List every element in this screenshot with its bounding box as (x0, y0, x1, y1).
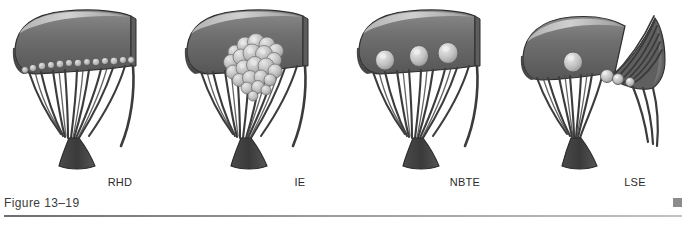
chordae-tendineae (373, 66, 469, 138)
papillary-muscle (231, 138, 267, 169)
chordae-secondary (35, 68, 107, 138)
papillary-muscle (59, 138, 95, 169)
valve-diagram-rhd (3, 0, 175, 176)
figure-caption-row: Figure 13–19 (0, 196, 690, 214)
chordae-right-marginal (633, 87, 658, 146)
valve-panels-row (0, 0, 690, 176)
figure-container: RHD IE NBTE LSE Figure 13–19 (0, 0, 690, 225)
caption-divider-rule (4, 215, 682, 217)
panel-label-lse: LSE (575, 176, 690, 188)
marginal-chord (465, 66, 478, 146)
panel-label-ie: IE (240, 176, 360, 188)
papillary-muscle (562, 138, 597, 169)
marginal-chord (293, 66, 306, 146)
panel-label-nbte: NBTE (405, 176, 525, 188)
papillary-muscle (403, 138, 439, 169)
page-corner-square-icon (673, 198, 682, 207)
chordae-tendineae (29, 66, 125, 138)
chordae-tendineae-lower (537, 73, 603, 138)
valve-diagram-nbte (347, 0, 519, 176)
figure-caption: Figure 13–19 (4, 196, 80, 210)
panel-labels-row: RHD IE NBTE LSE (0, 176, 690, 196)
chordae-secondary (379, 68, 451, 138)
marginal-chord (121, 66, 134, 146)
valve-diagram-ie (175, 0, 347, 176)
panel-label-rhd: RHD (60, 176, 180, 188)
valve-diagram-lse (515, 0, 687, 176)
